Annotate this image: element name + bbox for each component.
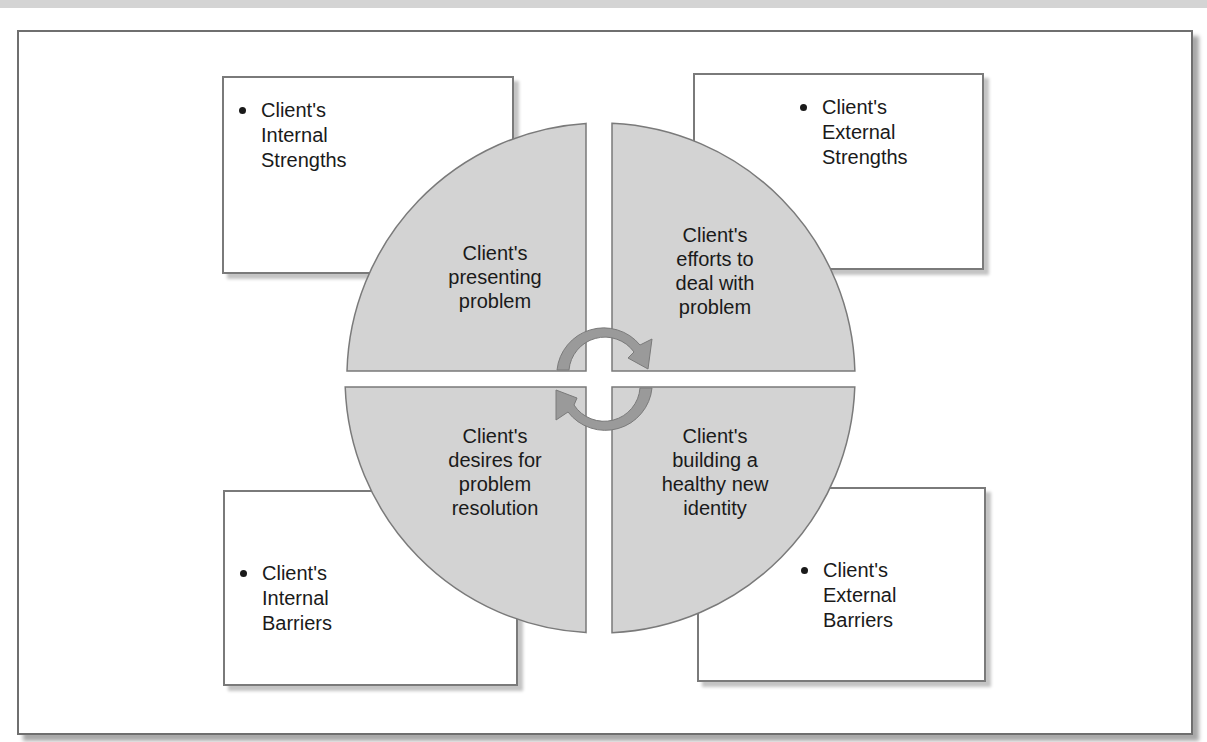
quadrant-text-top-right: Client's efforts to deal with problem (640, 223, 790, 319)
box-line: Strengths (261, 148, 347, 173)
bullet-icon (239, 107, 246, 114)
box-text-internal-strengths: Client's Internal Strengths (261, 98, 347, 173)
box-line: Client's (822, 95, 908, 120)
quadrant-line: presenting (420, 265, 570, 289)
bullet-icon (801, 567, 808, 574)
quadrant-line: Client's (630, 424, 800, 448)
bullet-icon (240, 570, 247, 577)
quadrant-line: deal with (640, 271, 790, 295)
box-line: Client's (262, 561, 332, 586)
quadrant-text-bottom-right: Client's building a healthy new identity (630, 424, 800, 520)
box-text-external-strengths: Client's External Strengths (822, 95, 908, 170)
box-line: Client's (823, 558, 896, 583)
quadrant-line: Client's (640, 223, 790, 247)
quadrant-line: building a (630, 448, 800, 472)
box-line: Strengths (822, 145, 908, 170)
quadrant-circle (0, 0, 1207, 742)
quadrant-line: healthy new (630, 472, 800, 496)
box-line: Barriers (823, 608, 896, 633)
quadrant-line: Client's (420, 424, 570, 448)
box-line: External (822, 120, 908, 145)
box-line: Barriers (262, 611, 332, 636)
quadrant-line: Client's (420, 241, 570, 265)
quadrant-line: problem (420, 289, 570, 313)
quadrant-line: efforts to (640, 247, 790, 271)
box-text-internal-barriers: Client's Internal Barriers (262, 561, 332, 636)
quadrant-text-top-left: Client's presenting problem (420, 241, 570, 313)
quadrant-line: identity (630, 496, 800, 520)
quadrant-line: problem (420, 472, 570, 496)
quadrant-line: desires for (420, 448, 570, 472)
box-line: Client's (261, 98, 347, 123)
box-text-external-barriers: Client's External Barriers (823, 558, 896, 633)
cycle-arrows-icon (556, 328, 652, 430)
quadrant-line: resolution (420, 496, 570, 520)
box-line: External (823, 583, 896, 608)
box-line: Internal (261, 123, 347, 148)
bullet-icon (800, 104, 807, 111)
quadrant-line: problem (640, 295, 790, 319)
quadrant-text-bottom-left: Client's desires for problem resolution (420, 424, 570, 520)
box-line: Internal (262, 586, 332, 611)
